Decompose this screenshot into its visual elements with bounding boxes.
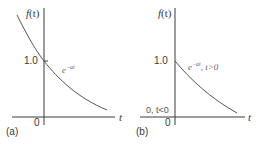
zero-region-label: 0, t<0	[146, 105, 169, 115]
panel-label-b: (b)	[136, 126, 148, 137]
figure: f(t) 1.0 e−at 0 t (a) f(t) 1.0 e−at, t>0…	[0, 0, 261, 144]
panel-a: f(t) 1.0 e−at 0 t (a)	[6, 7, 123, 137]
y-tick-label: 1.0	[24, 55, 38, 66]
origin-label: 0	[34, 117, 40, 128]
x-axis-label: t	[119, 111, 123, 123]
y-axis-label: f(t)	[158, 7, 172, 20]
panel-b: f(t) 1.0 e−at, t>0 0, t<0 0 t (b)	[136, 7, 252, 137]
panel-label-a: (a)	[6, 126, 18, 137]
y-axis-label: f(t)	[26, 7, 40, 20]
origin-label: 0	[165, 117, 171, 128]
y-tick-label: 1.0	[154, 55, 168, 66]
curve-label: e−at	[62, 64, 75, 75]
x-axis-label: t	[248, 111, 252, 123]
curve-label: e−at, t>0	[188, 61, 219, 72]
